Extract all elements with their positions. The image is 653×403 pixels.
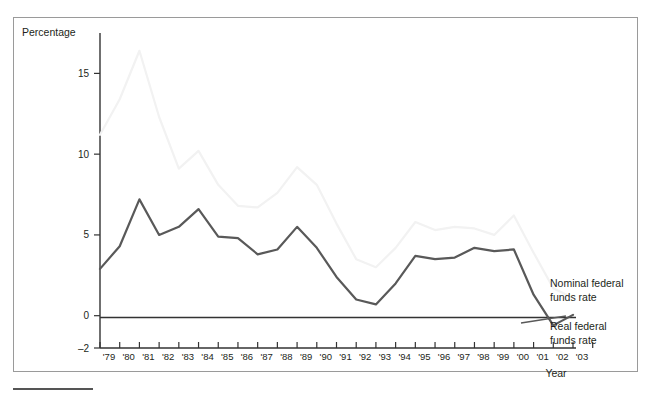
x-axis-tick-label: '90 bbox=[320, 351, 332, 362]
x-axis-tick-label: '99 bbox=[497, 351, 509, 362]
x-axis-tick-label: '89 bbox=[300, 351, 312, 362]
x-axis-tick-label: '88 bbox=[280, 351, 292, 362]
y-axis-tick-label: 15 bbox=[78, 68, 90, 79]
x-axis-tick-label: '81 bbox=[142, 351, 154, 362]
y-axis-title: Percentage bbox=[22, 26, 76, 38]
x-axis-tick-label: '03 bbox=[576, 351, 588, 362]
y-axis-tick-label: 10 bbox=[78, 149, 90, 160]
legend-label-real-line2: funds rate bbox=[550, 334, 597, 346]
x-axis-title: Year bbox=[545, 367, 567, 379]
x-axis-tick-label: '95 bbox=[418, 351, 430, 362]
y-ticks-group: 151050–2 bbox=[78, 68, 100, 354]
x-axis-tick-label: '92 bbox=[359, 351, 371, 362]
x-axis-tick-label: '91 bbox=[339, 351, 351, 362]
x-axis-tick-label: '83 bbox=[182, 351, 194, 362]
x-ticks-group: '79'80'81'82'83'84'85'86'87'88'89'90'91'… bbox=[100, 342, 593, 362]
x-axis-tick-label: '87 bbox=[260, 351, 272, 362]
x-axis-tick-label: '01 bbox=[536, 351, 548, 362]
x-axis-tick-label: '86 bbox=[241, 351, 253, 362]
x-axis-tick-label: '84 bbox=[201, 351, 213, 362]
y-axis-tick-label: 0 bbox=[83, 310, 89, 321]
x-axis-tick-label: '82 bbox=[162, 351, 174, 362]
chart-svg: 151050–2 '79'80'81'82'83'84'85'86'87'88'… bbox=[0, 0, 653, 403]
series-line-nominal-federal-funds-rate bbox=[100, 51, 573, 298]
axes-group bbox=[100, 33, 576, 348]
x-axis-tick-label: '85 bbox=[221, 351, 233, 362]
x-axis-tick-label: '79 bbox=[103, 351, 115, 362]
x-axis-tick-label: '96 bbox=[438, 351, 450, 362]
series-line-real-federal-funds-rate bbox=[100, 199, 573, 325]
x-axis-tick-label: '00 bbox=[517, 351, 529, 362]
y-axis-tick-label: 5 bbox=[83, 229, 89, 240]
x-axis-tick-label: '97 bbox=[458, 351, 470, 362]
legend-label-nominal-line2: funds rate bbox=[550, 291, 597, 303]
x-axis-tick-label: '93 bbox=[379, 351, 391, 362]
legend-label-real-line1: Real federal bbox=[550, 320, 607, 332]
legend-label-nominal-line1: Nominal federal bbox=[550, 277, 624, 289]
x-axis-tick-label: '02 bbox=[556, 351, 568, 362]
figure-container: 151050–2 '79'80'81'82'83'84'85'86'87'88'… bbox=[0, 0, 653, 403]
x-axis-tick-label: '80 bbox=[123, 351, 135, 362]
x-axis-tick-label: '94 bbox=[398, 351, 410, 362]
y-axis-tick-label: –2 bbox=[78, 343, 90, 354]
x-axis-tick-label: '98 bbox=[477, 351, 489, 362]
